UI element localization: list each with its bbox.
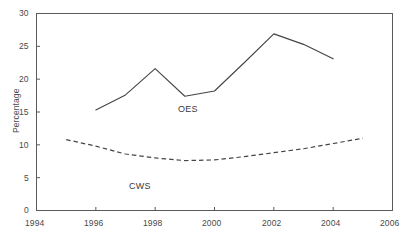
plot-area xyxy=(0,0,420,246)
x-axis-ticks xyxy=(37,207,393,211)
plot-frame xyxy=(37,14,393,211)
series-line-oes xyxy=(96,34,333,110)
series-line-cws xyxy=(66,138,363,160)
y-axis-ticks xyxy=(37,14,41,211)
chart-figure: 30 25 20 15 10 5 0 1994 1996 1998 2000 2… xyxy=(0,0,420,246)
